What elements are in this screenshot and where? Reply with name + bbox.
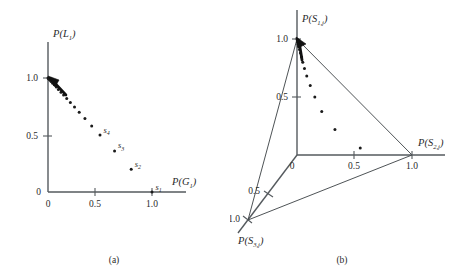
panel-a-xlabel-close: ) <box>192 176 197 188</box>
panel-b-dtick-label-1: 0.5 <box>248 186 260 196</box>
panel-a-xtick-label-2: 0.5 <box>89 199 101 209</box>
panel-a-data-points <box>47 77 154 194</box>
panel-a-y-axis-label: P(L1) <box>52 28 76 41</box>
panel-a-xlabel-main: P(G <box>171 176 190 188</box>
panel-b-label-s1-close: ) <box>323 13 328 25</box>
panel-b-label-s1-main: P(S <box>301 13 318 25</box>
panel-b-label-s3: P(S3,j) <box>237 235 264 248</box>
data-point <box>303 67 306 70</box>
data-point <box>130 168 133 171</box>
panel-b-htick-label-2: 1.0 <box>406 161 418 171</box>
panel-a-ytick-label-2: 0.5 <box>26 131 38 141</box>
panel-a-plot: 1.0 0.5 0 0 0.5 1.0 P(L1) P(G1) s1s2s3s4… <box>0 0 240 278</box>
data-point <box>83 117 86 120</box>
panel-b-caption: (b) <box>336 255 347 266</box>
panel-b-plot: 1.0 0.5 0 0.5 1.0 0.5 1.0 P(S1,j) P(S2,j… <box>230 0 473 278</box>
data-point <box>78 111 81 114</box>
panel-a-ytick-label-1: 1.0 <box>26 73 38 83</box>
data-point <box>359 147 362 150</box>
data-point <box>113 149 116 152</box>
panel-a-xtick-label-3: 1.0 <box>146 199 158 209</box>
data-point <box>305 75 308 78</box>
panel-b-vtick-label-1: 1.0 <box>276 34 288 44</box>
panel-b-dtick-label-2: 1.0 <box>230 214 240 224</box>
panel-a-ylabel-main: P(L <box>52 28 69 40</box>
data-point <box>313 96 316 99</box>
panel-b-data-points <box>296 38 362 150</box>
data-point <box>309 84 312 87</box>
panel-a-xtick-label-1: 0 <box>46 199 51 209</box>
data-point <box>99 134 102 137</box>
panel-b-origin-label: 0 <box>290 161 295 171</box>
data-point <box>320 110 323 113</box>
panel-a-caption: (a) <box>109 255 120 266</box>
panel-a-ylabel-close: ) <box>71 28 76 40</box>
panel-a-point-labels: s1s2s3s4 <box>104 125 162 193</box>
data-point-label: s3 <box>118 140 124 151</box>
panel-b-label-s2-close: ) <box>439 137 444 149</box>
panel-b-label-s1: P(S1,j) <box>301 13 328 26</box>
panel-b-vtick-label-2: 0.5 <box>276 92 288 102</box>
data-point-label: s2 <box>135 159 141 170</box>
data-point-label: s4 <box>104 125 110 136</box>
panel-b-label-s3-sub: 3,j <box>252 241 260 248</box>
figure-container: 1.0 0.5 0 0 0.5 1.0 P(L1) P(G1) s1s2s3s4… <box>0 0 473 278</box>
data-point <box>65 97 68 100</box>
data-point-label: s1 <box>156 182 162 193</box>
panel-a-x-axis-label: P(G1) <box>171 176 197 189</box>
panel-b-label-s3-main: P(S <box>237 235 254 247</box>
data-point <box>151 191 154 194</box>
data-point <box>69 101 72 104</box>
panel-b-htick-label-1: 0.5 <box>348 161 360 171</box>
panel-a-convergence-arrow <box>48 76 66 95</box>
panel-b-label-s2: P(S2,j) <box>417 137 444 150</box>
panel-b-label-s3-close: ) <box>259 235 264 247</box>
data-point <box>73 106 76 109</box>
panel-b-depth-axis <box>238 155 297 233</box>
data-point <box>90 124 93 127</box>
data-point <box>333 128 336 131</box>
panel-b-label-s2-main: P(S <box>417 137 434 149</box>
panel-a-ytick-label-3: 0 <box>36 187 41 197</box>
